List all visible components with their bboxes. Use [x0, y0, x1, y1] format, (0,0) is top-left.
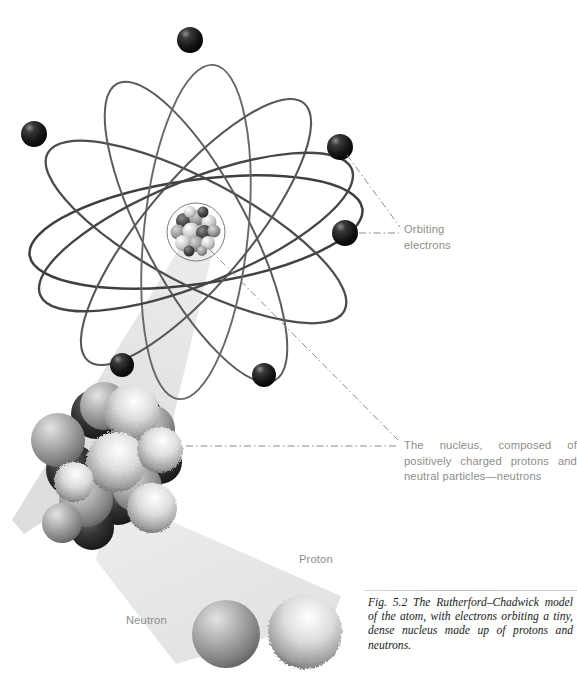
atom-figure: Orbiting electrons The nucleus, composed… — [0, 0, 577, 678]
callout-orbiting-electrons-line2: electrons — [404, 239, 451, 251]
leader-lines-layer — [0, 0, 577, 678]
callout-neutron: Neutron — [126, 613, 167, 629]
callout-proton: Proton — [299, 552, 333, 568]
callout-nucleus: The nucleus, composed of positively char… — [404, 438, 577, 485]
leader-electrons-diagonal — [347, 155, 400, 227]
figure-caption: Fig. 5.2 The Rutherford–Chadwick model o… — [368, 596, 573, 653]
caption-divider — [364, 590, 577, 591]
leader-nucleus-diagonal — [210, 250, 398, 440]
callout-orbiting-electrons: Orbiting electrons — [404, 222, 514, 253]
callout-orbiting-electrons-line1: Orbiting — [404, 223, 444, 235]
